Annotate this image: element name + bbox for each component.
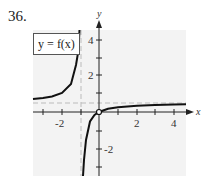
function-label: y = f(x) <box>38 37 75 51</box>
x-tick-label: 4 <box>171 117 177 129</box>
y-axis-label: y <box>96 8 102 19</box>
y-axis-arrow-icon <box>96 20 102 28</box>
x-tick-label: 2 <box>134 117 140 129</box>
open-point-origin <box>97 110 102 115</box>
function-label-box: y = f(x) <box>33 33 80 55</box>
y-tick-label: 2 <box>88 69 94 81</box>
x-axis-label: x <box>195 106 201 117</box>
y-tick-label: 4 <box>88 34 94 46</box>
graph: -2 2 4 4 2 -2 x y <box>0 0 209 187</box>
x-axis-arrow-icon <box>186 109 194 115</box>
y-tick-label: -2 <box>104 143 113 155</box>
x-tick-label: -2 <box>55 117 64 129</box>
